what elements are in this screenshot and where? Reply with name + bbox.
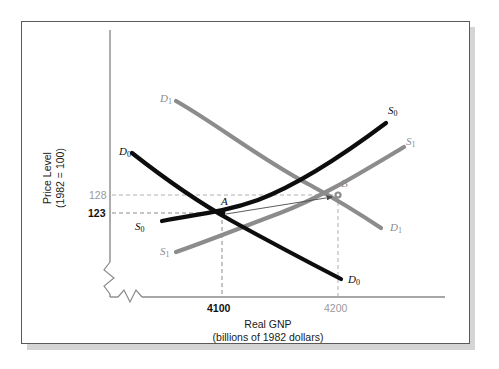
curve-label-d1-top: D1 <box>160 93 172 106</box>
y-axis-title: Price Level (1982 = 100) <box>41 118 67 238</box>
curve-s1-shifted-supply <box>176 147 404 252</box>
curve-label-d0-right: D0 <box>348 274 360 287</box>
y-axis-title-line1: Price Level <box>41 152 53 204</box>
curve-d0-initial-demand <box>132 153 341 279</box>
curves-group <box>132 101 404 279</box>
x-axis-break-icon <box>118 290 142 302</box>
x-axis-title: Real GNP (billions of 1982 dollars) <box>168 318 368 344</box>
point-label-a: A <box>221 196 228 207</box>
curve-label-s0-left: S0 <box>135 221 145 234</box>
y-tick-label-123: 123 <box>88 208 106 219</box>
y-axis-title-line2: (1982 = 100) <box>54 148 66 208</box>
x-axis-title-line1: Real GNP <box>244 318 291 330</box>
point-b-marker-core <box>337 194 340 197</box>
curve-label-s1-left: S1 <box>160 246 170 259</box>
y-tick-label-128: 128 <box>89 190 107 201</box>
curve-label-d1-right: D1 <box>390 222 402 235</box>
y-axis-break-icon <box>104 262 114 294</box>
x-tick-label-4200: 4200 <box>324 303 347 314</box>
curve-label-s1-top: S1 <box>406 136 416 149</box>
curve-label-d0-top: D0 <box>119 146 131 159</box>
figure-root: D1 S0 S1 D0 S0 S1 D1 D0 A B 128 123 <box>0 0 499 369</box>
plot-area: D1 S0 S1 D0 S0 S1 D1 D0 A B 128 123 <box>0 0 499 369</box>
curve-label-s0-top: S0 <box>388 105 398 118</box>
curve-d1-shifted-demand <box>176 101 381 228</box>
point-label-b: B <box>341 178 348 189</box>
x-tick-label-4100: 4100 <box>207 303 230 314</box>
x-axis-title-line2: (billions of 1982 dollars) <box>213 331 324 343</box>
point-a-marker <box>219 210 226 217</box>
chart-canvas <box>0 0 499 369</box>
